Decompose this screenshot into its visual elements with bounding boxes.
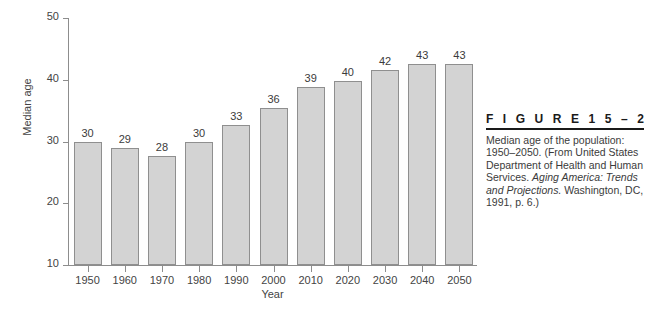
caption-line-1: Median age of the population: — [486, 134, 624, 146]
x-axis-tick — [274, 266, 275, 272]
y-axis-title: Median age — [20, 62, 34, 152]
y-axis-tick: 10 — [63, 265, 68, 266]
figure-number-heading: F I G U R E 1 5 – 2 — [486, 112, 646, 126]
bar-value-label: 43 — [436, 49, 482, 61]
y-axis-tick-label: 40 — [47, 72, 59, 84]
x-axis-tick — [88, 266, 89, 272]
y-axis-tick: 40 — [63, 80, 68, 81]
x-axis-tick — [422, 266, 423, 272]
bar — [297, 87, 325, 265]
figure-caption-text: Median age of the population: 1950–2050.… — [486, 134, 646, 210]
y-axis-tick-label: 50 — [47, 10, 59, 22]
plot-area: 1020304050 19501960197019801990200020102… — [68, 18, 477, 265]
bar-value-label: 28 — [139, 141, 185, 153]
x-axis-tick — [348, 266, 349, 272]
bar — [445, 64, 473, 265]
y-axis-line — [68, 18, 69, 265]
x-axis-tick — [199, 266, 200, 272]
x-axis-line — [68, 265, 477, 266]
bar — [222, 125, 250, 265]
bar — [408, 64, 436, 265]
x-axis-tick — [311, 266, 312, 272]
caption-line-2: 1950–2050. (From United States — [486, 146, 638, 158]
bar — [334, 81, 362, 265]
x-axis-tick — [236, 266, 237, 272]
caption-source-title-part-2: and Projections. — [486, 184, 561, 196]
y-axis-tick: 50 — [63, 18, 68, 19]
y-axis-tick: 30 — [63, 142, 68, 143]
bar-value-label: 30 — [176, 127, 222, 139]
caption-source-title-part-1: Aging America: Trends — [532, 171, 638, 183]
x-axis-tick — [459, 266, 460, 272]
bar — [148, 156, 176, 265]
bar — [185, 142, 213, 265]
x-axis-tick — [385, 266, 386, 272]
bar-value-label: 40 — [325, 66, 371, 78]
figure-heading-rule — [486, 128, 644, 130]
caption-line-4-plain: Services. — [486, 171, 532, 183]
figure-caption-panel: F I G U R E 1 5 – 2 Median age of the po… — [486, 112, 646, 209]
x-axis-tick-label: 2050 — [436, 274, 482, 286]
y-axis-tick-label: 30 — [47, 134, 59, 146]
figure-chart-panel: Median age 1020304050 195019601970198019… — [0, 0, 478, 315]
x-axis-title: Year — [68, 288, 477, 300]
bar — [371, 70, 399, 265]
x-axis-tick — [125, 266, 126, 272]
bar-value-label: 36 — [251, 93, 297, 105]
bar — [111, 148, 139, 265]
bar — [260, 108, 288, 265]
y-axis-tick-label: 20 — [47, 195, 59, 207]
x-axis-tick — [162, 266, 163, 272]
caption-line-3: Department of Health and Human — [486, 159, 643, 171]
y-axis-tick-label: 10 — [47, 257, 59, 269]
y-axis-tick: 20 — [63, 203, 68, 204]
bar-value-label: 33 — [213, 110, 259, 122]
caption-line-6: 1991, p. 6.) — [486, 196, 539, 208]
bar — [74, 142, 102, 265]
caption-line-5-plain: Washington, DC, — [561, 184, 643, 196]
